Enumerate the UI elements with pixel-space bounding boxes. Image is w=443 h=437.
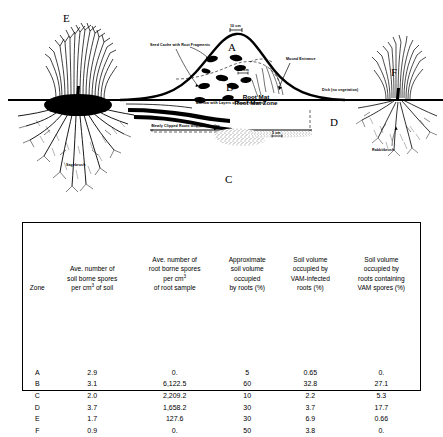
cell-roots-containing-vam-spores: 27.1 xyxy=(343,379,420,391)
header-line: Soil volume xyxy=(345,255,418,265)
scale-bottom-label: 5 cm xyxy=(272,131,281,135)
header-seg: per cm xyxy=(71,284,91,291)
column-header-root-borne-spores: Ave. number of root borne spores per cm3… xyxy=(133,223,217,295)
zone-letter-D: D xyxy=(330,116,338,128)
cell-approx-soil-volume: 10 xyxy=(216,390,278,402)
table-body: A2.90.50.650.B3.16,122.56032.827.1C2.02,… xyxy=(23,367,420,437)
header-line: per cm3 of soil xyxy=(54,283,131,293)
zone-letter-B: B xyxy=(226,81,233,93)
header-line: per cm3 xyxy=(135,274,215,284)
zone-letter-C: C xyxy=(225,173,232,185)
cell-root-borne-spores: 1,658.2 xyxy=(133,402,217,414)
cell-approx-soil-volume: 50 xyxy=(216,425,278,437)
disk-annotation: Disk (no vegetation) xyxy=(322,88,359,92)
seed-cache-label-line1: Seed Cache with Root Fragments xyxy=(150,43,210,47)
cell-soil-borne-spores: 1.7 xyxy=(52,414,133,426)
cell-roots-containing-vam-spores: 0. xyxy=(343,367,420,379)
rabbitbrush-label: Rabbitbrush xyxy=(372,148,394,152)
cell-vam-infected-roots: 6.9 xyxy=(278,414,343,426)
cell-zone: E xyxy=(23,414,52,426)
cell-soil-borne-spores: 0.9 xyxy=(52,425,133,437)
cell-root-borne-spores: 0. xyxy=(133,367,217,379)
header-spacer-row xyxy=(23,295,420,367)
scale-mid-label: 10 cm xyxy=(238,68,249,72)
column-header-soil-borne-spores: Ave. number of soil borne spores per cm3… xyxy=(52,223,133,295)
cell-root-borne-spores: 2,209.2 xyxy=(133,390,217,402)
cell-roots-containing-vam-spores: 0. xyxy=(343,425,420,437)
cell-vam-infected-roots: 3.7 xyxy=(278,402,343,414)
table-row: A2.90.50.650. xyxy=(23,367,420,379)
header-line: soil volume xyxy=(218,264,276,274)
table-row: C2.02,209.2102.25.3 xyxy=(23,390,420,402)
cell-zone: D xyxy=(23,402,52,414)
header-line: VAM spores (%) xyxy=(345,283,418,293)
header-line: roots (%) xyxy=(280,283,341,293)
header-line: occupied xyxy=(218,274,276,284)
cell-soil-borne-spores: 3.1 xyxy=(52,379,133,391)
scale-bar-mid: 10 cm xyxy=(238,68,249,75)
header-line: Ave. number of xyxy=(54,264,131,274)
cell-roots-containing-vam-spores: 17.7 xyxy=(343,402,420,414)
header-line: roots containing xyxy=(345,274,418,284)
sagebrush-plant: Sagebrush xyxy=(18,23,134,192)
header-line: occupied by xyxy=(345,264,418,274)
header-line: Ave. number of xyxy=(135,255,215,265)
header-spacer xyxy=(23,295,420,367)
header-seg: per cm xyxy=(163,275,183,282)
header-line: VAM-infected xyxy=(280,274,341,284)
data-table-panel: Zone Ave. number of soil borne spores pe… xyxy=(22,222,421,391)
cell-roots-containing-vam-spores: 5.3 xyxy=(343,390,420,402)
zone-letter-E: E xyxy=(63,12,70,24)
cell-approx-soil-volume: 60 xyxy=(216,379,278,391)
cell-roots-containing-vam-spores: 0.66 xyxy=(343,414,420,426)
scale-bar-top: 10 cm xyxy=(230,24,242,32)
cell-soil-borne-spores: 3.7 xyxy=(52,402,133,414)
cell-approx-soil-volume: 30 xyxy=(216,402,278,414)
cell-soil-borne-spores: 2.9 xyxy=(52,367,133,379)
cell-root-borne-spores: 6,122.5 xyxy=(133,379,217,391)
table-header-row: Zone Ave. number of soil borne spores pe… xyxy=(23,223,420,295)
cell-zone: F xyxy=(23,425,52,437)
table-row: F0.90.503.80. xyxy=(23,425,420,437)
header-line: soil borne spores xyxy=(54,274,131,284)
sagebrush-label: Sagebrush xyxy=(66,163,85,167)
zone-letter-A: A xyxy=(228,41,236,53)
mound-entrance-label: Mound Entrance xyxy=(286,57,316,61)
header-line: Soil volume xyxy=(280,255,341,265)
cell-vam-infected-roots: 0.65 xyxy=(278,367,343,379)
header-seg: of soil xyxy=(94,284,113,291)
header-superscript: 3 xyxy=(183,274,186,279)
column-header-vam-infected-roots: Soil volume occupied by VAM-infected roo… xyxy=(278,223,343,295)
scale-top-label: 10 cm xyxy=(230,24,241,28)
table-header: Zone Ave. number of soil borne spores pe… xyxy=(23,223,420,367)
cell-zone: B xyxy=(23,379,52,391)
header-line: by roots (%) xyxy=(218,283,276,293)
burrow-annotation: Burrow with Layers of Root Fragments xyxy=(196,101,266,105)
cell-root-borne-spores: 0. xyxy=(133,425,217,437)
header-line: Approximate xyxy=(218,255,276,265)
column-header-roots-containing-vam-spores: Soil volume occupied by roots containing… xyxy=(343,223,420,295)
zone-data-table: Zone Ave. number of soil borne spores pe… xyxy=(23,223,420,437)
cell-approx-soil-volume: 30 xyxy=(216,414,278,426)
table-row: D3.71,658.2303.717.7 xyxy=(23,402,420,414)
cell-vam-infected-roots: 2.2 xyxy=(278,390,343,402)
column-header-approx-soil-volume: Approximate soil volume occupied by root… xyxy=(216,223,278,295)
column-header-zone: Zone xyxy=(23,223,52,295)
cell-root-borne-spores: 127.6 xyxy=(133,414,217,426)
cross-section-illustration: Sagebrush 10 cm Seed Cache with Root Fra… xyxy=(0,0,443,210)
cell-soil-borne-spores: 2.0 xyxy=(52,390,133,402)
header-line: occupied by xyxy=(280,264,341,274)
zone-letter-F: F xyxy=(391,66,397,78)
header-line: of root sample xyxy=(135,283,215,293)
disk-label: Disk (no vegetation) xyxy=(322,88,359,92)
table-row: B3.16,122.56032.827.1 xyxy=(23,379,420,391)
table-row: E1.7127.6306.90.66 xyxy=(23,414,420,426)
header-line: Zone xyxy=(25,283,50,293)
mound-entrance-annotation: Mound Entrance xyxy=(278,57,316,90)
cell-approx-soil-volume: 5 xyxy=(216,367,278,379)
cell-zone: A xyxy=(23,367,52,379)
rabbitbrush-plant: Rabbitbrush xyxy=(356,35,437,156)
cell-zone: C xyxy=(23,390,52,402)
burrow-label: Burrow with Layers of Root Fragments xyxy=(196,101,266,105)
cell-vam-infected-roots: 3.8 xyxy=(278,425,343,437)
